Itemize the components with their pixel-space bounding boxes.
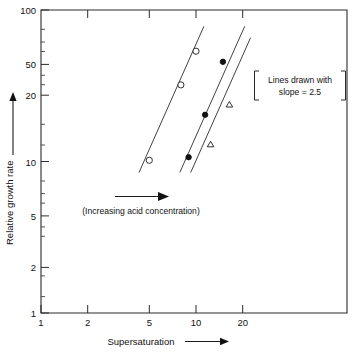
data-point-filled-circle [186,155,191,160]
y-tick-label: 20 [25,90,36,101]
plot-frame [41,10,347,313]
x-tick-labels: 1 2 5 10 20 [38,317,248,328]
data-point-open-triangle [226,102,233,108]
data-point-filled-circle [220,59,225,64]
y-tick-label: 100 [20,5,36,16]
y-tick-label: 2 [31,262,36,273]
acid-concentration-label: (Increasing acid concentration) [82,206,200,216]
x-tick-label: 5 [147,317,152,328]
slope-legend-line1: Lines drawn with [268,75,332,85]
y-axis-title: Relative growth rate [4,161,15,245]
y-tick-label: 1 [31,308,36,319]
y-tick-label: 5 [31,211,36,222]
y-tick-label: 10 [25,157,36,168]
x-axis-title-group: Supersaturation [107,336,229,347]
y-axis-arrow-icon [9,92,16,101]
x-tick-label: 10 [191,317,202,328]
x-axis-title: Supersaturation [107,336,174,347]
slope-legend: Lines drawn with slope = 2.5 [255,71,346,100]
y-axis-title-group: Relative growth rate [4,92,17,245]
chart-svg: 100 50 20 10 5 2 1 1 2 5 10 20 Relative … [0,0,361,352]
growth-rate-supersaturation-chart: 100 50 20 10 5 2 1 1 2 5 10 20 Relative … [0,0,361,352]
data-point-filled-circle [202,112,207,117]
acid-concentration-annotation: (Increasing acid concentration) [82,192,200,216]
series-open-triangle [191,38,251,173]
data-point-open-circle [193,48,199,54]
series-open-circle [139,26,204,172]
data-point-open-circle [146,157,152,163]
x-axis-arrow-icon [220,338,229,345]
acid-arrow-icon [158,192,169,201]
data-point-open-circle [178,82,184,88]
x-tick-label: 2 [85,317,90,328]
series-filled-circle [180,26,245,172]
y-tick-labels: 100 50 20 10 5 2 1 [20,5,36,319]
slope-legend-line2: slope = 2.5 [279,87,322,97]
y-axis-ticks [41,10,49,313]
x-axis-ticks [41,10,243,313]
x-tick-label: 1 [38,317,43,328]
data-point-open-triangle [207,141,214,147]
y-tick-label: 50 [25,59,36,70]
x-tick-label: 20 [237,317,248,328]
